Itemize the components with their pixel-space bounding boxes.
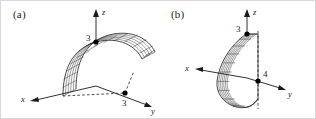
panel-b-y-tick-label: 4 — [263, 69, 268, 79]
panel-a-axis-z-label: z — [101, 7, 106, 17]
panel-b-axis-z-label: z — [252, 7, 257, 17]
panel-b-surface — [217, 34, 262, 108]
panel-b-y-tick-dot — [255, 78, 260, 83]
figure-container: (a) — [0, 0, 316, 119]
panel-b-axis-y-label: y — [287, 89, 292, 99]
panel-a-y-tick-dot — [122, 90, 127, 95]
panel-a: (a) — [1, 1, 159, 119]
panel-b-axis-x-label: x — [184, 63, 189, 73]
panel-b-drawing: z y x 3 4 — [159, 1, 316, 119]
panel-b: (b) — [159, 1, 316, 119]
panel-b-axis-z — [244, 9, 250, 34]
panel-a-z-tick-label: 3 — [86, 33, 91, 43]
panel-b-z-tick-label: 3 — [236, 24, 241, 34]
panel-a-y-tick-label: 3 — [122, 98, 127, 108]
panel-a-surface — [59, 32, 155, 96]
panel-b-z-tick-dot — [244, 31, 249, 36]
panel-a-axis-x-label: x — [20, 94, 25, 104]
panel-a-drawing: z y x 3 3 — [1, 1, 159, 119]
panel-a-z-tick-dot — [93, 39, 98, 44]
panel-a-axis-y-label: y — [150, 106, 155, 116]
